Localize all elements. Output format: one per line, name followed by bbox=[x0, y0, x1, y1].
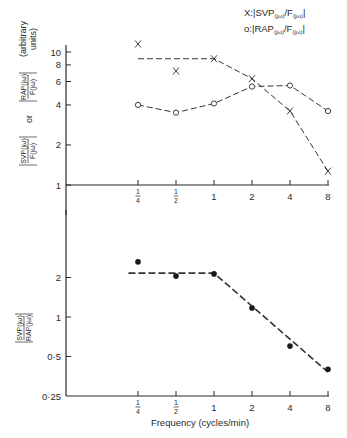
x-marker bbox=[325, 168, 331, 175]
svg-text:F(jω): F(jω) bbox=[29, 143, 37, 159]
x-tick-label: 1 bbox=[136, 188, 140, 195]
data-point bbox=[135, 259, 141, 265]
y-tick-label: 1 bbox=[56, 180, 61, 191]
y-tick-label: 6 bbox=[56, 76, 61, 87]
svg-text:F(jω): F(jω) bbox=[29, 79, 37, 95]
y-tick-label: 8 bbox=[56, 59, 61, 70]
y-tick-label: 0·5 bbox=[47, 351, 61, 362]
data-point bbox=[249, 305, 255, 311]
x-marker bbox=[173, 67, 179, 74]
bottom-panel: 0·250·51214121248Frequency (cycles/min)S… bbox=[15, 210, 331, 428]
x-tick-label: 4 bbox=[287, 402, 292, 413]
svg-text:SVP(jω): SVP(jω) bbox=[20, 138, 28, 164]
figure: 124681014121248X:|SVP(jω)/F(jω)|o:|RAP(j… bbox=[0, 0, 347, 438]
x-tick-label: 2 bbox=[249, 402, 254, 413]
ratio-fit-line bbox=[128, 273, 328, 372]
x-marker bbox=[287, 108, 293, 115]
data-point bbox=[325, 366, 331, 372]
svg-text:RAP(jω): RAP(jω) bbox=[20, 74, 28, 100]
x-tick-label: 1 bbox=[211, 191, 216, 202]
legend: X:|SVP(jω)/F(jω)|o:|RAP(jω)/F(jω)| bbox=[244, 7, 305, 35]
svp-fit-line bbox=[138, 59, 328, 171]
y-tick-label: 4 bbox=[56, 99, 61, 110]
data-point bbox=[211, 271, 217, 277]
x-axis-label: Frequency (cycles/min) bbox=[151, 417, 249, 428]
o-marker bbox=[325, 108, 330, 113]
data-point bbox=[287, 343, 293, 349]
y-axis-label: SVP(jω)RAP(jω) bbox=[15, 314, 33, 342]
x-tick-label: 1 bbox=[136, 399, 140, 406]
y-tick-label: 0·25 bbox=[42, 391, 61, 402]
y-tick-label: 1 bbox=[56, 312, 61, 323]
svg-text:units): units) bbox=[28, 28, 38, 50]
x-tick-label: 1 bbox=[174, 399, 178, 406]
x-marker bbox=[135, 40, 141, 47]
svg-text:SVP(jω): SVP(jω) bbox=[16, 315, 24, 341]
rap-line bbox=[138, 85, 328, 112]
x-tick-label: 8 bbox=[325, 402, 330, 413]
x-tick-label: 4 bbox=[136, 408, 140, 415]
x-tick-label: 4 bbox=[136, 197, 140, 204]
o-marker bbox=[173, 110, 178, 115]
y-tick-label: 2 bbox=[56, 272, 61, 283]
legend-x-label: X:|SVP(jω)/F(jω)| bbox=[244, 7, 305, 19]
x-tick-label: 4 bbox=[287, 191, 292, 202]
x-tick-label: 8 bbox=[325, 191, 330, 202]
x-tick-label: 2 bbox=[174, 197, 178, 204]
y-tick-label: 10 bbox=[50, 47, 61, 58]
y-tick-label: 2 bbox=[56, 139, 61, 150]
legend-o-label: o:|RAP(jω)/F(jω)| bbox=[244, 23, 305, 35]
o-marker bbox=[135, 102, 140, 107]
top-panel: 124681014121248X:|SVP(jω)/F(jω)|o:|RAP(j… bbox=[18, 7, 331, 215]
data-point bbox=[173, 273, 179, 279]
y-axis-label: SVP(jω)F(jω)orRAP(jω)F(jω)(arbitraryunit… bbox=[18, 21, 38, 165]
x-tick-label: 1 bbox=[174, 188, 178, 195]
x-tick-label: 2 bbox=[174, 408, 178, 415]
svg-text:(arbitrary: (arbitrary bbox=[18, 21, 28, 58]
x-marker bbox=[249, 75, 255, 82]
svg-text:RAP(jω): RAP(jω) bbox=[25, 315, 33, 341]
svg-text:or: or bbox=[24, 115, 34, 123]
x-tick-label: 1 bbox=[211, 402, 216, 413]
x-tick-label: 2 bbox=[249, 191, 254, 202]
o-marker bbox=[249, 84, 254, 89]
o-marker bbox=[287, 83, 292, 88]
o-marker bbox=[211, 101, 216, 106]
